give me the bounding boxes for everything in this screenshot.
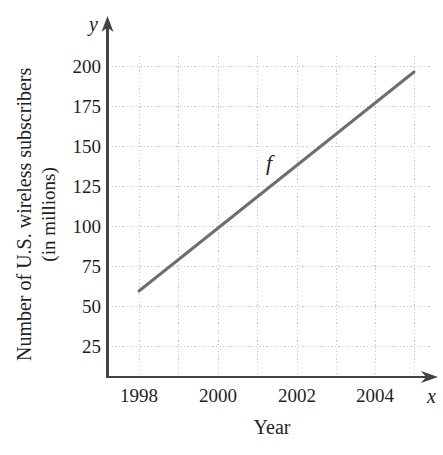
x-axis-title: Year xyxy=(212,417,332,437)
y-axis-symbol: y xyxy=(89,14,98,34)
y-tick-label-100: 100 xyxy=(55,217,101,236)
series-line-f xyxy=(139,72,414,291)
y-tick-label-75: 75 xyxy=(55,257,101,276)
y-tick-label-25: 25 xyxy=(55,337,101,356)
y-tick-label-175: 175 xyxy=(55,97,101,116)
x-tick-label-2002: 2002 xyxy=(267,386,327,405)
x-tick-label-2000: 2000 xyxy=(188,386,248,405)
x-tick-label-2004: 2004 xyxy=(345,386,405,405)
y-tick-label-125: 125 xyxy=(55,177,101,196)
chart-figure: 200 175 150 125 100 75 50 25 1998 2000 2… xyxy=(0,0,443,455)
y-tick-label-150: 150 xyxy=(55,137,101,156)
x-tick-label-1998: 1998 xyxy=(109,386,169,405)
y-tick-label-50: 50 xyxy=(55,297,101,316)
horizontal-gridlines xyxy=(108,67,432,347)
y-tick-label-200: 200 xyxy=(55,57,101,76)
y-axis-title: Number of U.S. wireless subscribers (in … xyxy=(12,24,61,404)
y-axis-title-line2: (in millions) xyxy=(37,24,61,404)
curve-label-f: f xyxy=(266,152,272,174)
y-axis-title-line1: Number of U.S. wireless subscribers xyxy=(13,68,35,361)
x-axis-symbol: x xyxy=(427,386,436,406)
